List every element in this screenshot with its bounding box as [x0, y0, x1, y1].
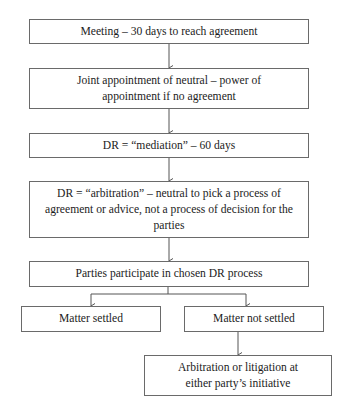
node-label: DR = “arbitration” – neutral to pick a p… — [36, 186, 302, 234]
node-label: Matter settled — [59, 311, 123, 327]
node-label: Matter not settled — [213, 311, 295, 327]
node-joint-appointment: Joint appointment of neutral – power of … — [29, 68, 309, 109]
node-settled: Matter settled — [21, 306, 161, 332]
node-label: Arbitration or litigation at either part… — [165, 360, 311, 392]
node-label: DR = “mediation” – 60 days — [103, 138, 235, 154]
node-arbitration-process: DR = “arbitration” – neutral to pick a p… — [29, 181, 309, 238]
node-label: Joint appointment of neutral – power of … — [60, 73, 278, 105]
node-label: Meeting – 30 days to reach agreement — [80, 24, 257, 40]
node-meeting: Meeting – 30 days to reach agreement — [29, 19, 309, 44]
node-label: Parties participate in chosen DR process — [75, 266, 262, 282]
node-not-settled: Matter not settled — [184, 306, 324, 332]
node-participate: Parties participate in chosen DR process — [29, 261, 309, 287]
node-escalation: Arbitration or litigation at either part… — [144, 355, 332, 396]
node-mediation: DR = “mediation” – 60 days — [29, 133, 309, 158]
